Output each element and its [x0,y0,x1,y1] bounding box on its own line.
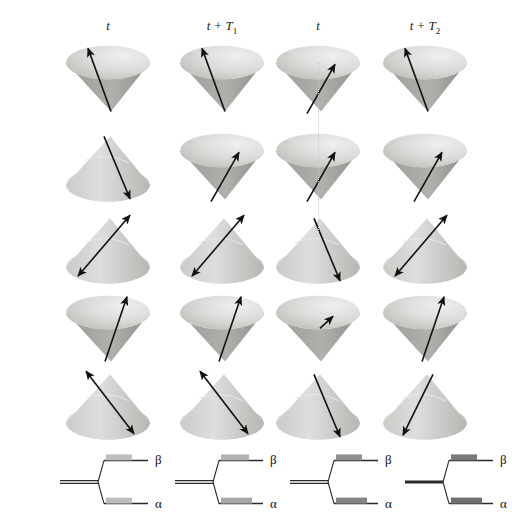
precession-cone-r2-c2 [176,127,268,205]
precession-cone-r5-c2 [176,365,268,443]
precession-cone-r2-c4 [379,127,471,205]
level-label-beta: β [385,452,392,468]
cone-opening-ellipse [180,134,264,168]
energy-level-graphic [405,446,512,518]
cone-graphic [272,289,364,367]
fork-arm-beta [443,460,449,482]
precession-cone-r1-c2 [176,39,268,117]
precession-cone-r4-c1 [62,289,154,367]
energy-level-diagram-c2: βα [175,446,287,518]
precession-cone-r3-c2 [176,209,268,287]
precession-cone-r4-c2 [176,289,268,367]
cone-graphic [379,127,471,205]
energy-level-diagram-c3: βα [290,446,402,518]
cone-graphic [62,209,154,287]
fork-arm-alpha [443,482,449,504]
energy-level-diagram-c4: βα [405,446,512,518]
precession-cone-r2-c1 [62,127,154,205]
cone-graphic [176,209,268,287]
cone-graphic [379,365,471,443]
precession-cone-r3-c1 [62,209,154,287]
fork-arm-beta [328,460,334,482]
column-header-c2: t + T1 [207,18,238,36]
column-header-subscript: 2 [436,26,441,36]
vertical-dotted-guide-line [318,62,319,232]
cone-body [66,374,150,439]
column-header-subscript: 1 [233,26,238,36]
level-label-beta: β [270,452,277,468]
precession-cone-r5-c4 [379,365,471,443]
cone-graphic [62,289,154,367]
column-header-c3: t [316,18,320,34]
cone-graphic [176,127,268,205]
population-bar-beta [336,454,362,460]
population-bar-alpha [451,498,482,504]
precession-cone-r3-c4 [379,209,471,287]
cone-graphic [379,209,471,287]
cone-graphic [272,365,364,443]
cone-graphic [379,39,471,117]
cone-opening-ellipse [66,46,150,80]
level-label-beta: β [500,452,507,468]
population-bar-alpha [221,498,252,504]
cone-graphic [176,365,268,443]
fork-arm-alpha [98,482,104,504]
fork-arm-alpha [213,482,219,504]
cone-graphic [62,127,154,205]
cone-graphic [379,289,471,367]
column-header-text: t + T [207,18,233,33]
cone-opening-ellipse [180,296,264,330]
level-label-alpha: α [385,496,392,512]
precession-cone-r4-c3 [272,289,364,367]
cone-body [66,218,150,283]
column-header-text: t [106,18,110,33]
level-label-alpha: α [155,496,162,512]
population-bar-alpha [106,498,132,504]
column-header-text: t + T [410,18,436,33]
cone-graphic [62,39,154,117]
population-bar-beta [451,454,477,460]
energy-level-diagram-c1: βα [60,446,172,518]
cone-opening-ellipse [383,46,467,80]
fork-arm-beta [98,460,104,482]
level-label-beta: β [155,452,162,468]
cone-graphic [62,365,154,443]
fork-arm-alpha [328,482,334,504]
cone-opening-ellipse [180,46,264,80]
cone-opening-ellipse [383,134,467,168]
cone-graphic [176,39,268,117]
column-header-text: t [316,18,320,33]
level-label-alpha: α [270,496,277,512]
cone-opening-ellipse [276,296,360,330]
cone-body [180,374,264,439]
precession-cone-r4-c4 [379,289,471,367]
level-label-alpha: α [500,496,507,512]
fork-arm-beta [213,460,219,482]
cone-opening-ellipse [66,296,150,330]
cone-graphic [176,289,268,367]
precession-cone-r5-c3 [272,365,364,443]
precession-cone-r1-c4 [379,39,471,117]
precession-cone-r5-c1 [62,365,154,443]
cone-opening-ellipse [383,296,467,330]
population-bar-beta [106,454,132,460]
column-header-c1: t [106,18,110,34]
column-header-c4: t + T2 [410,18,441,36]
cone-body [180,218,264,283]
population-bar-beta [221,454,249,460]
population-bar-alpha [336,498,367,504]
cone-body [383,218,467,283]
precession-cone-r1-c1 [62,39,154,117]
cone-body [383,374,467,439]
